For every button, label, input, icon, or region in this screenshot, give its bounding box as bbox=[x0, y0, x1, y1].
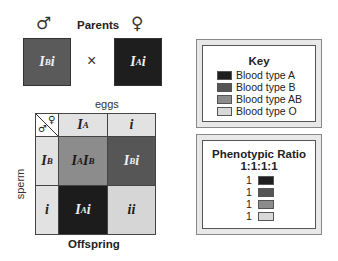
allele-a: I bbox=[75, 202, 80, 218]
color-swatch-icon bbox=[217, 95, 232, 104]
ratio-item: 1 bbox=[246, 174, 274, 186]
ratio-count: 1 bbox=[246, 198, 252, 210]
allele-suffix: i bbox=[87, 202, 91, 218]
ratio-value: 1:1:1:1 bbox=[203, 160, 315, 172]
allele-base: I bbox=[41, 153, 46, 169]
key-item-label: Blood type AB bbox=[236, 93, 302, 105]
female-symbol-icon: ♀ bbox=[131, 15, 143, 32]
ratio-item: 1 bbox=[246, 186, 274, 198]
key-item-label: Blood type B bbox=[236, 81, 296, 93]
key-title: Key bbox=[203, 55, 315, 67]
allele-suffix: i bbox=[135, 153, 139, 169]
key-item: Blood type AB bbox=[217, 93, 302, 105]
color-swatch-icon bbox=[258, 212, 274, 221]
color-swatch-icon bbox=[217, 83, 232, 92]
offspring-cell-ii: ii bbox=[107, 185, 156, 235]
sperm-label: sperm bbox=[14, 162, 26, 206]
color-swatch-icon bbox=[217, 107, 232, 116]
phenotypic-ratio-panel: Phenotypic Ratio 1:1:1:1 1111 bbox=[196, 134, 322, 235]
punnett-corner: ♂ ♀ bbox=[35, 113, 59, 137]
ratio-count: 1 bbox=[246, 186, 252, 198]
allele-suffix: i bbox=[51, 54, 55, 70]
color-swatch-icon bbox=[258, 188, 274, 197]
parents-title: Parents bbox=[77, 19, 119, 31]
punnett-square: ♂ ♀ IA i IB i IAIB IBi IAi ii bbox=[35, 113, 155, 234]
column-header-IA: IA bbox=[58, 113, 108, 137]
ratio-count: 1 bbox=[246, 174, 252, 186]
female-parent-genotype: IAi bbox=[114, 38, 162, 86]
offspring-cell-IAIB: IAIB bbox=[58, 136, 108, 186]
allele-suffix: i bbox=[142, 54, 146, 70]
ratio-title: Phenotypic Ratio bbox=[203, 148, 315, 160]
male-symbol-icon: ♂ bbox=[36, 15, 51, 32]
corner-female-icon: ♀ bbox=[48, 114, 55, 125]
cross-symbol: × bbox=[87, 52, 96, 70]
column-header-i: i bbox=[107, 113, 156, 137]
male-parent-genotype: IBi bbox=[23, 38, 71, 86]
ratio-item: 1 bbox=[246, 210, 274, 222]
key-panel: Key Blood type ABlood type BBlood type A… bbox=[196, 39, 322, 128]
row-header-i: i bbox=[35, 185, 59, 235]
key-item-label: Blood type A bbox=[236, 69, 295, 81]
allele-base: I bbox=[77, 117, 82, 133]
allele-base: I bbox=[39, 54, 44, 70]
allele-base: I bbox=[130, 54, 135, 70]
color-swatch-icon bbox=[258, 176, 274, 185]
corner-male-icon: ♂ bbox=[38, 123, 47, 134]
allele-suffix: i bbox=[130, 117, 134, 133]
key-panel-inner: Key Blood type ABlood type BBlood type A… bbox=[202, 45, 316, 122]
color-swatch-icon bbox=[258, 200, 274, 209]
ratio-count: 1 bbox=[246, 210, 252, 222]
color-swatch-icon bbox=[217, 71, 232, 80]
allele-suffix: ii bbox=[128, 202, 136, 218]
eggs-label: eggs bbox=[95, 98, 119, 110]
row-header-IB: IB bbox=[35, 136, 59, 186]
key-item: Blood type O bbox=[217, 105, 297, 117]
offspring-cell-IBi: IBi bbox=[107, 136, 156, 186]
allele-suffix: i bbox=[45, 202, 49, 218]
key-item-label: Blood type O bbox=[236, 105, 297, 117]
ratio-panel-inner: Phenotypic Ratio 1:1:1:1 1111 bbox=[202, 140, 316, 229]
ratio-item: 1 bbox=[246, 198, 274, 210]
offspring-label: Offspring bbox=[68, 238, 120, 250]
key-item: Blood type B bbox=[217, 81, 296, 93]
key-item: Blood type A bbox=[217, 69, 295, 81]
offspring-cell-IAi: IAi bbox=[58, 185, 108, 235]
